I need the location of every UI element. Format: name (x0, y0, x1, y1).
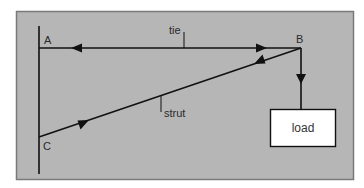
tie-strut-diagram: load A B C tie strut (0, 0, 364, 188)
tie-label: tie (169, 24, 181, 36)
strut-label: strut (164, 107, 185, 119)
load-label: load (292, 121, 315, 135)
node-c-label: C (43, 140, 51, 152)
node-b-label: B (296, 33, 303, 45)
node-a-label: A (44, 34, 52, 46)
